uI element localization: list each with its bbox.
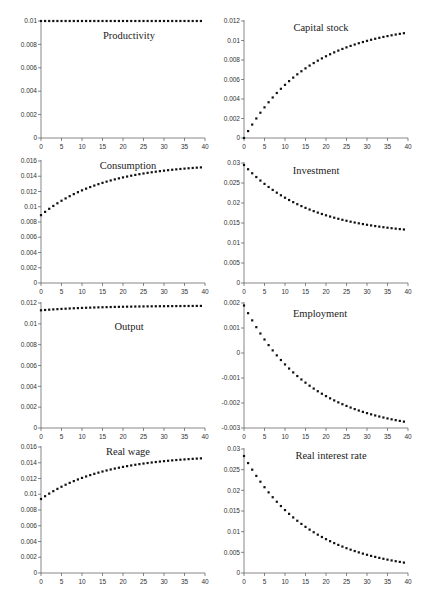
x-tick-label: 5 <box>60 433 64 440</box>
x-tick-label: 0 <box>242 288 246 295</box>
data-point <box>77 20 79 22</box>
data-point <box>374 38 376 40</box>
x-tick-label: 10 <box>281 143 289 150</box>
data-point <box>134 174 136 176</box>
data-point <box>284 84 286 86</box>
data-point <box>284 509 286 511</box>
data-point <box>73 20 75 22</box>
x-tick-label: 35 <box>384 288 392 295</box>
data-point <box>147 305 149 307</box>
data-point <box>163 170 165 172</box>
data-point <box>247 462 249 464</box>
data-point <box>97 183 99 185</box>
x-tick-label: 40 <box>201 578 209 585</box>
data-point <box>114 20 116 22</box>
data-point <box>358 42 360 44</box>
data-point <box>134 20 136 22</box>
data-point <box>60 308 62 310</box>
y-tick-label: 0.01 <box>24 203 37 210</box>
data-point <box>288 80 290 82</box>
x-tick-label: 25 <box>140 578 148 585</box>
data-point <box>313 387 315 389</box>
x-tick-label: 30 <box>160 143 168 150</box>
data-point <box>280 194 282 196</box>
y-tick-label: 0.01 <box>227 239 240 246</box>
data-point <box>44 20 46 22</box>
data-point <box>114 178 116 180</box>
data-point <box>259 332 261 334</box>
data-point <box>97 306 99 308</box>
y-tick-label: 0.002 <box>21 553 38 560</box>
x-tick-label: 40 <box>201 143 209 150</box>
data-point <box>378 226 380 228</box>
data-point <box>255 326 257 328</box>
data-point <box>321 213 323 215</box>
x-tick-label: 40 <box>201 288 209 295</box>
y-tick-label: 0.006 <box>21 64 38 71</box>
data-point <box>259 179 261 181</box>
data-point <box>403 421 405 423</box>
data-point <box>399 420 401 422</box>
x-tick-label: 35 <box>384 433 392 440</box>
y-tick-label: 0.015 <box>224 507 241 514</box>
data-point <box>77 191 79 193</box>
chart-panel-consumption: 00.0020.0040.0060.0080.010.0120.0140.016… <box>21 157 209 295</box>
data-point <box>183 305 185 307</box>
data-point <box>345 547 347 549</box>
data-point <box>40 20 42 22</box>
data-point <box>188 305 190 307</box>
data-point <box>399 33 401 35</box>
data-point <box>313 210 315 212</box>
data-series <box>40 20 202 22</box>
y-tick-label: 0 <box>33 134 37 141</box>
y-tick-label: 0.012 <box>21 475 38 482</box>
data-point <box>155 461 157 463</box>
data-point <box>399 228 401 230</box>
data-point <box>337 401 339 403</box>
data-point <box>138 20 140 22</box>
y-tick-label: 0.005 <box>224 549 241 556</box>
data-point <box>60 200 62 202</box>
y-tick-label: 0.004 <box>21 383 38 390</box>
data-point <box>171 20 173 22</box>
data-point <box>288 513 290 515</box>
data-point <box>114 306 116 308</box>
y-tick-label: 0 <box>236 279 240 286</box>
data-point <box>196 305 198 307</box>
data-point <box>325 214 327 216</box>
x-tick-label: 40 <box>404 433 412 440</box>
y-tick-label: 0.02 <box>227 487 240 494</box>
x-tick-label: 0 <box>242 433 246 440</box>
data-point <box>259 481 261 483</box>
data-point <box>142 172 144 174</box>
data-point <box>263 183 265 185</box>
x-tick-label: 25 <box>343 143 351 150</box>
x-tick-label: 25 <box>140 143 148 150</box>
data-point <box>325 55 327 57</box>
data-point <box>329 215 331 217</box>
y-tick-label: -0.002 <box>222 399 241 406</box>
data-point <box>341 545 343 547</box>
y-tick-label: 0.004 <box>21 87 38 94</box>
data-point <box>337 218 339 220</box>
data-point <box>272 496 274 498</box>
data-point <box>65 484 67 486</box>
data-point <box>292 77 294 79</box>
data-point <box>183 458 185 460</box>
data-point <box>142 462 144 464</box>
data-point <box>255 475 257 477</box>
data-point <box>386 417 388 419</box>
data-point <box>337 544 339 546</box>
x-tick-label: 10 <box>78 143 86 150</box>
data-point <box>81 477 83 479</box>
data-point <box>44 211 46 213</box>
y-tick-label: 0.01 <box>24 490 37 497</box>
x-tick-label: 25 <box>140 288 148 295</box>
data-point <box>288 367 290 369</box>
x-tick-label: 40 <box>404 288 412 295</box>
x-tick-label: 30 <box>160 578 168 585</box>
chart-grid: 00.0020.0040.0060.0080.01051015202530354… <box>0 0 433 597</box>
x-tick-label: 30 <box>363 578 371 585</box>
data-point <box>288 199 290 201</box>
data-point <box>65 197 67 199</box>
